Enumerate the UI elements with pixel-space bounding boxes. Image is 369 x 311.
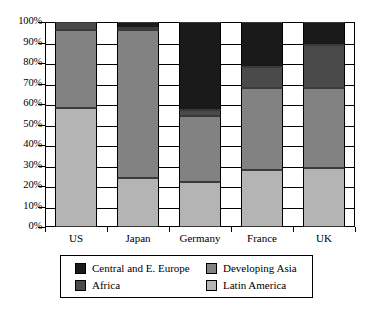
bar-segment-developing-asia: [179, 116, 221, 182]
bar-segment-latin-america: [241, 170, 283, 227]
legend-item-africa: Africa: [75, 279, 120, 292]
bar-japan: [117, 22, 159, 227]
y-axis-tick-mark: [38, 125, 45, 126]
y-axis-tick-mark: [38, 22, 45, 23]
y-axis-tick-mark: [38, 145, 45, 146]
x-axis-tick-mark: [231, 227, 232, 232]
bar-segment-latin-america: [117, 178, 159, 227]
x-axis-tick-label-uk: UK: [284, 232, 364, 245]
y-axis-tick-label: 50%: [23, 119, 42, 129]
y-axis-tick-label: 20%: [23, 180, 42, 190]
x-axis-tick-mark: [107, 227, 108, 232]
y-axis-tick-label: 80%: [23, 57, 42, 67]
y-axis-tick-mark: [38, 63, 45, 64]
legend-item-developing-asia: Developing Asia: [206, 262, 297, 275]
y-axis-tick-mark: [38, 166, 45, 167]
y-axis-tick-label: 40%: [23, 139, 42, 149]
x-axis-tick-mark: [355, 227, 356, 232]
legend-swatch-icon: [75, 280, 86, 291]
y-axis-tick-mark: [38, 207, 45, 208]
bar-segment-central-and-e-europe: [241, 22, 283, 67]
bars-layer: [45, 22, 355, 227]
stacked-bar-chart: 0%10%20%30%40%50%60%70%80%90%100% USJapa…: [0, 0, 369, 311]
legend-label: Developing Asia: [223, 262, 297, 275]
bar-segment-latin-america: [55, 108, 97, 227]
bar-france: [241, 22, 283, 227]
bar-uk: [303, 22, 345, 227]
chart-legend: Central and E. EuropeDeveloping AsiaAfri…: [60, 255, 313, 298]
bar-segment-latin-america: [303, 168, 345, 227]
legend-label: Latin America: [223, 279, 286, 292]
bar-segment-central-and-e-europe: [303, 22, 345, 45]
bar-segment-africa: [55, 22, 97, 30]
y-axis-tick-label: 70%: [23, 78, 42, 88]
y-axis-tick-label: 30%: [23, 160, 42, 170]
bar-segment-developing-asia: [117, 30, 159, 178]
y-axis-tick-mark: [38, 227, 45, 228]
bar-segment-latin-america: [179, 182, 221, 227]
bar-segment-developing-asia: [55, 30, 97, 108]
legend-swatch-icon: [75, 263, 86, 274]
bar-us: [55, 22, 97, 227]
legend-label: Africa: [92, 279, 120, 292]
y-axis-tick-label: 0%: [28, 221, 42, 231]
bar-segment-africa: [241, 67, 283, 88]
legend-item-latin-america: Latin America: [206, 279, 286, 292]
x-axis-tick-mark: [169, 227, 170, 232]
bar-segment-africa: [179, 110, 221, 116]
y-axis-tick-label: 10%: [23, 201, 42, 211]
x-axis-tick-mark: [293, 227, 294, 232]
legend-swatch-icon: [206, 263, 217, 274]
legend-label: Central and E. Europe: [92, 262, 190, 275]
bar-segment-developing-asia: [303, 88, 345, 168]
y-axis-tick-label: 60%: [23, 98, 42, 108]
y-axis-tick-mark: [38, 43, 45, 44]
bar-segment-africa: [117, 28, 159, 30]
bar-segment-central-and-e-europe: [179, 22, 221, 110]
y-axis-tick-mark: [38, 186, 45, 187]
bar-segment-africa: [303, 45, 345, 88]
y-axis-tick-label: 90%: [23, 37, 42, 47]
legend-item-central-and-e-europe: Central and E. Europe: [75, 262, 190, 275]
legend-swatch-icon: [206, 280, 217, 291]
bar-segment-developing-asia: [241, 88, 283, 170]
y-axis-tick-mark: [38, 84, 45, 85]
bar-germany: [179, 22, 221, 227]
y-axis-tick-mark: [38, 104, 45, 105]
bar-segment-central-and-e-europe: [117, 22, 159, 28]
x-axis-tick-mark: [45, 227, 46, 232]
y-axis-tick-label: 100%: [18, 16, 42, 26]
